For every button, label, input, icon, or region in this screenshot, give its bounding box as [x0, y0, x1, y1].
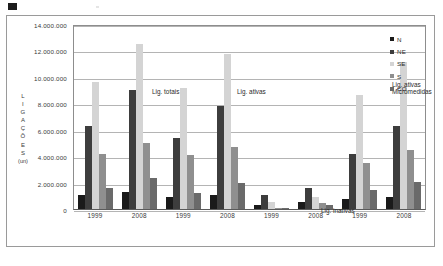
legend-label: CO	[397, 85, 407, 92]
legend-swatch-icon	[390, 87, 394, 91]
chart-legend: NNESESCO	[390, 33, 438, 95]
bar-n	[78, 195, 85, 209]
bar-group	[293, 26, 337, 209]
legend-item-n[interactable]: N	[390, 33, 438, 45]
bar-co	[414, 182, 421, 209]
x-tick-label: 2008	[205, 212, 249, 226]
bar-group	[206, 26, 250, 209]
y-tick-label: 8.000.000	[38, 101, 67, 108]
y-tick-label: 0	[63, 207, 67, 214]
bar-n	[254, 205, 261, 209]
legend-swatch-icon	[390, 50, 394, 54]
legend-item-se[interactable]: SE	[390, 58, 438, 70]
bar-s	[187, 155, 194, 209]
bar-ne	[393, 126, 400, 209]
bar-se	[92, 82, 99, 209]
bar-co	[150, 178, 157, 209]
stray-dotted-mark	[96, 6, 158, 8]
annotation-line: Lig. ativas	[237, 88, 266, 95]
plot-area: Lig. totais Lig. ativas Lig. inativas Li…	[73, 25, 426, 210]
bar-ne	[217, 106, 224, 209]
bar-se	[180, 88, 187, 209]
x-tick-label: 2008	[382, 212, 426, 226]
y-tick-label: 6.000.000	[38, 127, 67, 134]
legend-item-s[interactable]: S	[390, 70, 438, 82]
y-tick-label: 10.000.000	[34, 74, 67, 81]
y-tick-label: 14.000.000	[34, 22, 67, 29]
bar-s	[275, 208, 282, 209]
legend-label: NE	[397, 48, 406, 55]
bar-group	[118, 26, 162, 209]
legend-swatch-icon	[390, 74, 394, 78]
legend-label: SE	[397, 60, 406, 67]
bar-groups	[74, 26, 425, 209]
bar-n	[210, 195, 217, 209]
y-tick-label: 4.000.000	[38, 154, 67, 161]
x-axis-tick-labels: 19992008199920081999200819992008	[73, 212, 426, 226]
bar-ne	[261, 195, 268, 209]
bar-ne	[85, 126, 92, 209]
bar-s	[407, 150, 414, 209]
bar-s	[231, 147, 238, 209]
bar-group	[250, 26, 294, 209]
bar-co	[194, 193, 201, 209]
stray-square-mark	[8, 3, 17, 10]
bar-se	[312, 197, 319, 209]
y-axis-title: LIGAÇÕES(un)	[17, 92, 29, 165]
bar-ne	[129, 90, 136, 209]
x-tick-label: 1999	[250, 212, 294, 226]
bar-co	[106, 188, 113, 209]
x-tick-label: 1999	[73, 212, 117, 226]
bar-co	[370, 190, 377, 209]
bar-co	[282, 208, 289, 209]
x-tick-label: 2008	[117, 212, 161, 226]
y-tick-label: 12.000.000	[34, 48, 67, 55]
bar-ne	[349, 154, 356, 209]
bar-group	[337, 26, 381, 209]
y-tick-label: 2.000.000	[38, 180, 67, 187]
annotation-lig-totais: Lig. totais	[152, 88, 179, 95]
bar-s	[363, 163, 370, 209]
bar-ne	[305, 188, 312, 209]
top-artifact-strip	[0, 0, 443, 16]
bar-co	[238, 183, 245, 209]
x-tick-label: 1999	[338, 212, 382, 226]
bar-group	[162, 26, 206, 209]
x-tick-label: 1999	[161, 212, 205, 226]
legend-label: S	[397, 73, 401, 80]
legend-item-co[interactable]: CO	[390, 83, 438, 95]
bar-ne	[173, 138, 180, 209]
annotation-lig-ativas: Lig. ativas	[237, 88, 266, 95]
chart-frame: 14.000.00012.000.00010.000.0008.000.0006…	[6, 15, 435, 247]
legend-swatch-icon	[390, 37, 394, 41]
bar-n	[166, 197, 173, 209]
legend-label: N	[397, 36, 402, 43]
bar-n	[122, 192, 129, 209]
legend-item-ne[interactable]: NE	[390, 45, 438, 57]
bar-se	[136, 44, 143, 209]
bar-n	[298, 202, 305, 209]
bar-se	[356, 95, 363, 209]
bar-group	[74, 26, 118, 209]
bar-n	[386, 197, 393, 209]
legend-swatch-icon	[390, 62, 394, 66]
bar-se	[268, 202, 275, 209]
x-tick-label: 2008	[294, 212, 338, 226]
bar-s	[99, 154, 106, 209]
annotation-line: Lig. totais	[152, 88, 179, 95]
bar-se	[224, 54, 231, 209]
bar-s	[143, 143, 150, 209]
